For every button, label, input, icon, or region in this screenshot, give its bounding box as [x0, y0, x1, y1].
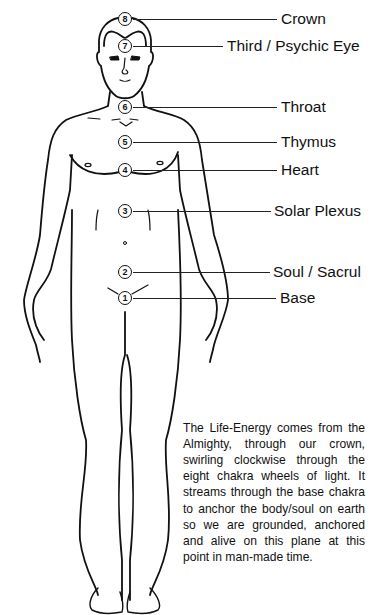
left-nipple — [85, 163, 91, 166]
chakra-marker-7: 7 — [118, 39, 132, 53]
leader-line-thymus — [133, 142, 277, 143]
left-arm-inner — [33, 155, 72, 340]
mouth — [120, 80, 130, 82]
chakra-marker-5: 5 — [118, 135, 132, 149]
leader-line-base — [133, 298, 276, 299]
label-solar-plexus: Solar Plexus — [274, 203, 361, 219]
chakra-marker-8: 8 — [118, 12, 132, 26]
label-thymus: Thymus — [281, 134, 336, 150]
right-foot — [127, 588, 159, 613]
right-arm-inner — [178, 155, 217, 340]
leader-line-heart — [133, 170, 277, 171]
chakra-marker-4: 4 — [118, 163, 132, 177]
right-eye — [131, 56, 140, 60]
right-leg-inner — [127, 355, 133, 600]
description-paragraph: The Life-Energy comes from the Almighty,… — [183, 420, 365, 565]
chakra-marker-2: 2 — [118, 265, 132, 279]
abdomen-right — [148, 210, 150, 230]
label-crown: Crown — [281, 11, 326, 27]
leader-line-crown — [133, 19, 277, 20]
chakra-marker-1: 1 — [118, 291, 132, 305]
leader-line-throat — [133, 107, 277, 108]
collar-lines — [88, 118, 138, 126]
right-nipple — [157, 161, 163, 164]
label-throat: Throat — [281, 99, 326, 115]
left-foot — [90, 588, 123, 613]
leader-line-solar-plexus — [133, 211, 271, 212]
left-eye — [110, 56, 119, 60]
label-soul-sacrul: Soul / Sacrul — [273, 264, 361, 280]
torso-left — [24, 92, 110, 362]
label-third-psychic-eye: Third / Psychic Eye — [227, 38, 360, 54]
chakra-marker-3: 3 — [118, 204, 132, 218]
abdomen-left — [96, 210, 98, 230]
left-leg-inner — [119, 312, 125, 600]
navel — [124, 242, 127, 245]
label-base: Base — [280, 290, 315, 306]
label-heart: Heart — [281, 162, 319, 178]
leader-line-sacral — [133, 272, 270, 273]
right-leg-outer — [150, 210, 181, 595]
chakra-marker-6: 6 — [118, 100, 132, 114]
leader-line-third-eye — [133, 46, 223, 47]
nose — [122, 58, 128, 74]
left-leg-outer — [71, 210, 98, 595]
